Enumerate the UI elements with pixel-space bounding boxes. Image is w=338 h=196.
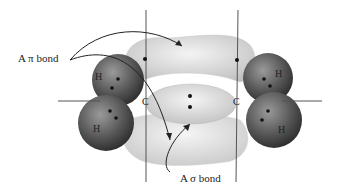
- hydrogen-bottom-right: [246, 92, 302, 148]
- pi-bond-label: A π bond: [18, 52, 58, 64]
- atom-label-h-top-right: H: [275, 68, 282, 79]
- ethylene-orbital-diagram: H H H H C C: [0, 0, 338, 196]
- hydrogen-bottom-left: [78, 95, 134, 151]
- sigma-bond-lobe: [146, 84, 236, 124]
- sigma-bond-label: A σ bond: [180, 172, 221, 184]
- atom-label-h-top-left: H: [95, 71, 102, 82]
- atom-label-c-left: C: [142, 96, 149, 107]
- atom-label-h-bottom-right: H: [278, 124, 285, 135]
- atom-label-h-bottom-left: H: [93, 123, 100, 134]
- atom-label-c-right: C: [233, 96, 240, 107]
